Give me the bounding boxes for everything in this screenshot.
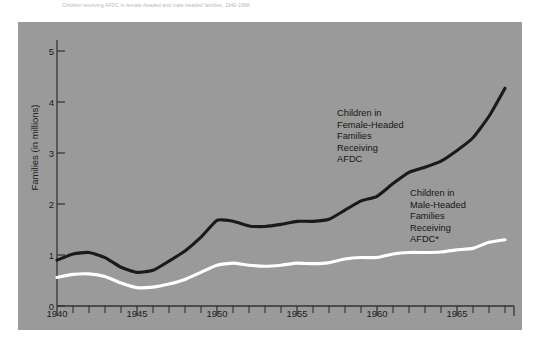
annotation-male-headed: Children in Male-Headed Families Receivi… — [410, 188, 466, 246]
figure-caption: Children receiving AFDC in female-headed… — [62, 0, 462, 10]
chart-panel: Families (in millions) 0 1 2 3 4 5 1940 … — [18, 22, 522, 330]
y-tick-marks — [57, 51, 65, 306]
chart-axes — [57, 40, 514, 316]
annotation-female-headed: Children in Female-Headed Families Recei… — [337, 108, 404, 166]
chart-plot-area — [18, 22, 522, 330]
series-line-male-headed — [57, 240, 505, 288]
x-tick-marks-major — [57, 306, 514, 316]
x-tick-marks-minor — [73, 306, 505, 313]
